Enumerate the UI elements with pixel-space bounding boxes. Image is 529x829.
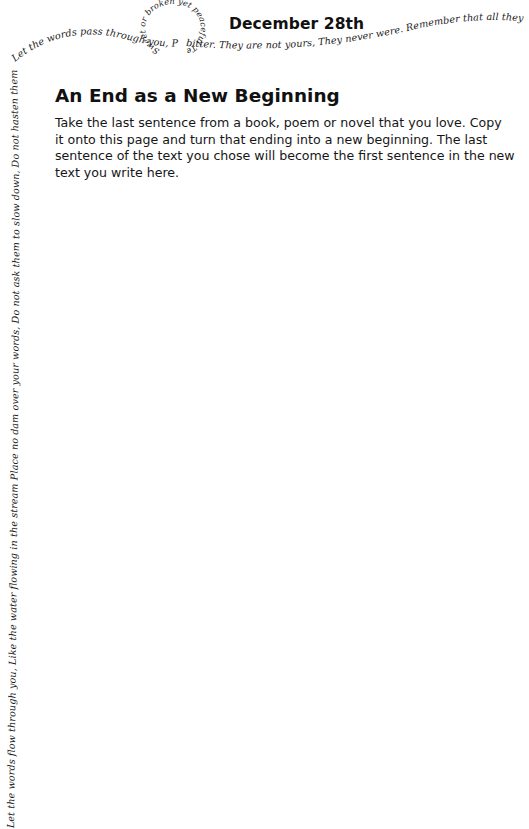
prompt-body: Take the last sentence from a book, poem… [55,115,515,181]
blank-writing-area [55,190,515,810]
prompt-line: text you write here. [55,165,515,182]
prompt-line: it onto this page and turn that ending i… [55,132,515,149]
prompt-line: Take the last sentence from a book, poem… [55,115,515,132]
border-script-left: Let the words flow through you, Like the… [0,0,21,829]
prompt-title: An End as a New Beginning [55,85,340,106]
prompt-line: sentence of the text you chose will beco… [55,148,515,165]
date-heading: December 28th [229,15,364,33]
